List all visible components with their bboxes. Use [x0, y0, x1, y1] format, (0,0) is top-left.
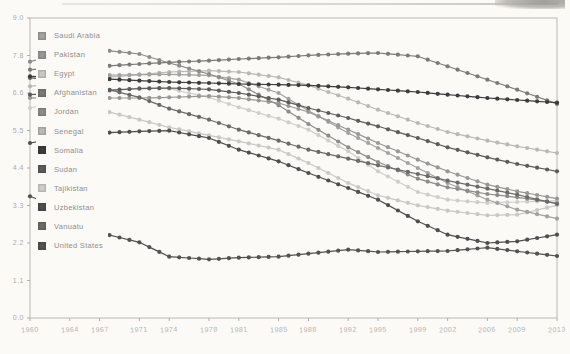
data-point-marker: [147, 120, 151, 124]
legend-swatch-icon: [38, 32, 46, 40]
data-point-marker: [515, 193, 519, 197]
data-point-marker: [167, 86, 171, 90]
data-point-marker: [237, 78, 241, 82]
data-point-marker: [406, 170, 410, 174]
data-point-marker: [117, 88, 121, 92]
data-point-marker: [456, 148, 460, 152]
data-point-marker: [406, 89, 410, 93]
data-point-marker: [436, 61, 440, 65]
data-point-marker: [177, 60, 181, 64]
data-point-marker: [296, 54, 300, 58]
data-point-marker: [366, 137, 370, 141]
data-point-marker: [376, 124, 380, 128]
data-point-marker: [525, 195, 529, 199]
data-point-marker: [316, 166, 320, 170]
data-point-marker: [217, 58, 221, 62]
data-point-marker: [495, 141, 499, 145]
data-point-marker: [177, 64, 181, 68]
data-point-marker: [465, 150, 469, 154]
data-point-marker: [396, 53, 400, 57]
data-point-marker: [107, 96, 111, 100]
data-point-marker: [436, 207, 440, 211]
data-point-marker: [525, 91, 529, 95]
data-point-marker: [416, 190, 420, 194]
data-point-marker: [535, 208, 539, 212]
legend-swatch-icon: [38, 165, 46, 173]
data-point-marker: [217, 121, 221, 125]
data-point-marker: [356, 51, 360, 55]
data-point-marker: [356, 185, 360, 189]
data-point-marker: [217, 75, 221, 79]
data-point-marker: [267, 96, 271, 100]
data-point-marker: [217, 95, 221, 99]
data-point-marker: [127, 238, 131, 242]
data-point-marker: [286, 78, 290, 82]
data-point-marker: [117, 73, 121, 77]
data-point-marker: [257, 255, 261, 259]
legend-item-united-states: United States: [38, 236, 108, 255]
data-point-marker: [277, 148, 281, 152]
data-point-marker: [475, 239, 479, 243]
data-point-marker: [28, 84, 32, 88]
data-point-marker: [465, 211, 469, 215]
data-point-marker: [306, 122, 310, 126]
data-point-marker: [107, 88, 111, 92]
data-point-marker: [257, 153, 261, 157]
data-point-marker: [446, 179, 450, 183]
legend-item-jordan: Jordan: [38, 102, 108, 121]
data-point-marker: [416, 136, 420, 140]
data-point-marker: [137, 62, 141, 66]
data-point-marker: [286, 254, 290, 258]
data-point-marker: [127, 73, 131, 77]
legend-swatch-icon: [38, 51, 46, 59]
data-point-marker: [237, 57, 241, 61]
data-point-marker: [555, 101, 559, 105]
data-point-marker: [515, 88, 519, 92]
data-point-marker: [505, 97, 509, 101]
data-point-marker: [465, 237, 469, 241]
data-point-marker: [485, 241, 489, 245]
data-point-marker: [376, 51, 380, 55]
data-point-marker: [485, 183, 489, 187]
data-point-marker: [177, 86, 181, 90]
data-point-marker: [306, 171, 310, 175]
data-point-marker: [525, 210, 529, 214]
data-point-marker: [416, 121, 420, 125]
data-point-marker: [336, 93, 340, 97]
data-point-marker: [306, 148, 310, 152]
data-point-marker: [475, 179, 479, 183]
legend-swatch-icon: [38, 70, 46, 78]
data-point-marker: [436, 142, 440, 146]
data-point-marker: [485, 139, 489, 143]
data-point-marker: [167, 95, 171, 99]
data-point-marker: [475, 200, 479, 204]
data-point-marker: [227, 90, 231, 94]
data-point-marker: [386, 250, 390, 254]
data-point-marker: [446, 145, 450, 149]
data-point-marker: [197, 81, 201, 85]
data-point-marker: [426, 180, 430, 184]
data-point-marker: [525, 238, 529, 242]
data-point-marker: [446, 209, 450, 213]
data-point-marker: [267, 114, 271, 118]
data-point-marker: [446, 233, 450, 237]
data-point-marker: [416, 90, 420, 94]
data-point-marker: [137, 79, 141, 83]
data-point-marker: [127, 93, 131, 97]
data-point-marker: [396, 114, 400, 118]
data-point-marker: [306, 83, 310, 87]
data-point-marker: [316, 128, 320, 132]
data-point-marker: [267, 82, 271, 86]
data-point-marker: [187, 73, 191, 77]
data-point-marker: [326, 178, 330, 182]
data-point-marker: [227, 124, 231, 128]
data-point-marker: [247, 97, 251, 101]
data-point-marker: [227, 82, 231, 86]
data-point-marker: [316, 114, 320, 118]
data-point-marker: [117, 130, 121, 134]
data-point-marker: [227, 102, 231, 106]
data-point-marker: [485, 192, 489, 196]
data-point-marker: [336, 144, 340, 148]
data-point-marker: [197, 115, 201, 119]
